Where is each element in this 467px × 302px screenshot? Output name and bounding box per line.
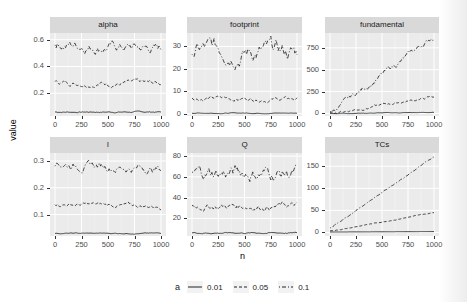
y-tick-mark	[47, 188, 50, 189]
x-tick-label: 250	[67, 240, 97, 249]
y-tick-mark	[184, 218, 187, 219]
y-tick-label: 40	[151, 193, 181, 202]
y-tick-mark	[184, 156, 187, 157]
x-tick-mark	[218, 236, 219, 239]
facet-panel-q	[187, 153, 302, 236]
x-tick-label: 1000	[146, 240, 176, 249]
y-tick-mark	[322, 70, 325, 71]
y-tick-mark	[322, 166, 325, 167]
x-tick-mark	[408, 236, 409, 239]
y-tick-mark	[184, 198, 187, 199]
x-tick-mark	[135, 116, 136, 119]
x-tick-label: 1000	[282, 120, 312, 129]
y-tick-mark	[184, 177, 187, 178]
x-tick-label: 1000	[282, 240, 312, 249]
x-tick-mark	[408, 116, 409, 119]
y-tick-mark	[184, 114, 187, 115]
y-axis-title: value	[8, 115, 18, 145]
x-tick-mark	[382, 236, 383, 239]
legend: a 0.01 0.05 0.1	[175, 280, 315, 294]
x-tick-mark	[245, 236, 246, 239]
y-tick-label: 20	[151, 64, 181, 73]
y-tick-label: 150	[289, 161, 319, 170]
x-tick-mark	[434, 116, 435, 119]
y-tick-mark	[47, 161, 50, 162]
legend-key-solid	[187, 281, 203, 293]
y-tick-label: 10	[151, 86, 181, 95]
legend-label-001: 0.01	[207, 283, 223, 292]
y-tick-mark	[47, 215, 50, 216]
legend-key-dashed	[233, 281, 249, 293]
y-tick-mark	[322, 113, 325, 114]
x-tick-label: 750	[120, 240, 150, 249]
y-tick-label: 0.3	[14, 156, 44, 165]
x-tick-mark	[55, 236, 56, 239]
x-tick-mark	[330, 236, 331, 239]
y-tick-label: 0	[289, 108, 319, 117]
y-tick-mark	[322, 92, 325, 93]
facet-strip-l: l	[50, 137, 166, 153]
x-tick-label: 750	[120, 120, 150, 129]
y-tick-label: 0.2	[14, 88, 44, 97]
facet-panel-fundamental	[325, 33, 439, 116]
x-tick-mark	[330, 116, 331, 119]
y-tick-label: 0	[289, 227, 319, 236]
x-tick-mark	[218, 116, 219, 119]
y-tick-label: 0.6	[14, 35, 44, 44]
facet-strip-tcs: TCs	[325, 137, 439, 153]
y-tick-mark	[322, 210, 325, 211]
y-tick-mark	[47, 93, 50, 94]
legend-label-01: 0.1	[298, 283, 309, 292]
legend-title: a	[175, 282, 180, 292]
y-tick-label: 500	[289, 65, 319, 74]
x-tick-mark	[192, 116, 193, 119]
y-tick-mark	[47, 66, 50, 67]
y-tick-label: 0	[151, 109, 181, 118]
y-tick-label: 0.1	[14, 210, 44, 219]
y-tick-mark	[322, 48, 325, 49]
y-tick-label: 750	[289, 43, 319, 52]
x-tick-mark	[356, 236, 357, 239]
x-tick-label: 500	[93, 240, 123, 249]
legend-key-dotdash	[278, 281, 294, 293]
y-tick-mark	[184, 46, 187, 47]
y-tick-label: 30	[151, 41, 181, 50]
facet-strip-alpha: alpha	[50, 17, 166, 33]
y-tick-mark	[184, 69, 187, 70]
facet-panel-alpha	[50, 33, 166, 116]
edge-shadow	[439, 0, 467, 302]
legend-label-005: 0.05	[253, 283, 269, 292]
y-tick-label: 60	[151, 172, 181, 181]
y-tick-mark	[322, 188, 325, 189]
x-tick-mark	[135, 236, 136, 239]
y-tick-label: 0.2	[14, 183, 44, 192]
y-tick-mark	[184, 91, 187, 92]
y-tick-label: 80	[151, 151, 181, 160]
x-tick-label: 0	[40, 240, 70, 249]
y-tick-label: 50	[289, 205, 319, 214]
x-tick-mark	[82, 116, 83, 119]
y-tick-mark	[322, 232, 325, 233]
facet-panel-footprint	[187, 33, 302, 116]
x-tick-mark	[245, 116, 246, 119]
y-tick-label: 100	[289, 183, 319, 192]
x-tick-mark	[271, 116, 272, 119]
x-tick-mark	[356, 116, 357, 119]
x-tick-mark	[192, 236, 193, 239]
y-tick-label: 250	[289, 87, 319, 96]
x-tick-label: 250	[67, 120, 97, 129]
facet-panel-l	[50, 153, 166, 236]
x-tick-mark	[55, 116, 56, 119]
x-tick-label: 500	[93, 120, 123, 129]
facet-strip-footprint: footprint	[187, 17, 302, 33]
y-tick-mark	[47, 40, 50, 41]
x-tick-mark	[382, 116, 383, 119]
facet-strip-q: Q	[187, 137, 302, 153]
x-tick-mark	[108, 236, 109, 239]
facet-strip-fundamental: fundamental	[325, 17, 439, 33]
x-tick-mark	[82, 236, 83, 239]
facet-panel-tcs	[325, 153, 439, 236]
x-axis-title: n	[240, 251, 245, 261]
x-tick-mark	[108, 116, 109, 119]
x-tick-label: 1000	[146, 120, 176, 129]
